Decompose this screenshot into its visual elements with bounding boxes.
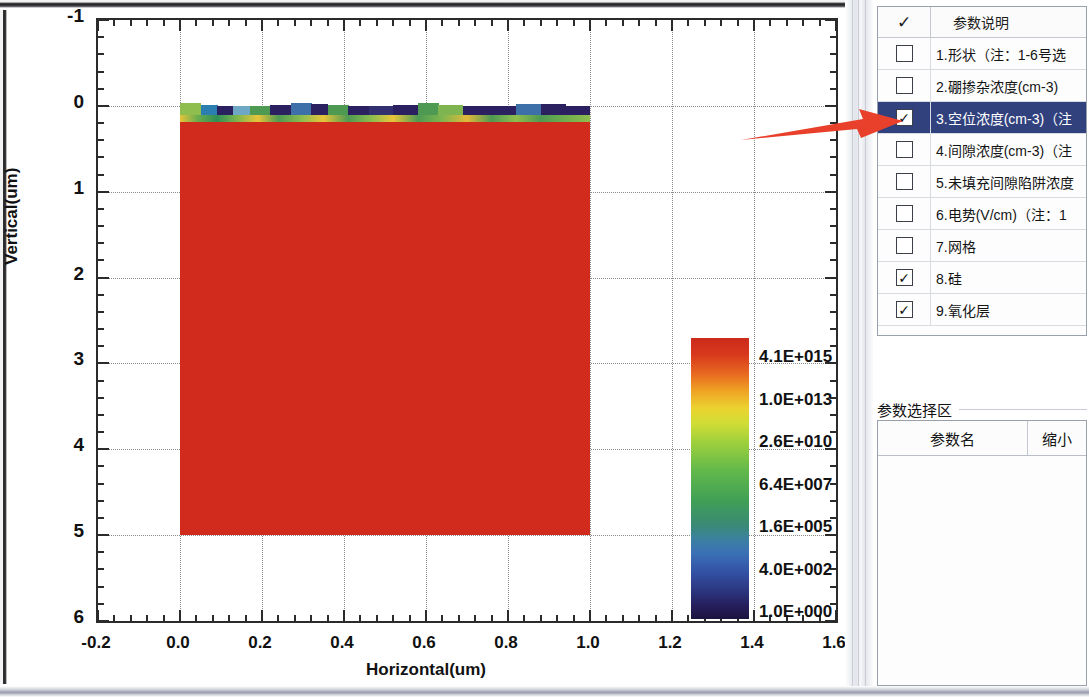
y-tick-minor: [830, 36, 836, 38]
x-tick-minor: [359, 20, 361, 26]
y-tick-minor: [98, 36, 104, 38]
parameter-row[interactable]: 1.形状（注：1-6号选: [878, 38, 1086, 70]
x-tick-minor: [523, 20, 525, 26]
parameter-checkbox-cell[interactable]: [878, 198, 931, 229]
y-tick-minor: [98, 465, 104, 467]
checkbox-unchecked-icon[interactable]: [896, 77, 913, 94]
x-tick-minor: [622, 615, 624, 621]
y-tick-minor: [830, 242, 836, 244]
checkbox-checked-icon[interactable]: ✓: [896, 301, 913, 318]
parameter-checkbox-cell[interactable]: ✓: [878, 262, 931, 293]
x-tick-minor: [687, 615, 689, 621]
parameter-row[interactable]: 2.硼掺杂浓度(cm-3): [878, 70, 1086, 102]
parameter-label: 2.硼掺杂浓度(cm-3): [931, 70, 1086, 101]
parameter-row[interactable]: 7.网格: [878, 230, 1086, 262]
parameter-label: 4.间隙浓度(cm-3)（注: [931, 134, 1086, 165]
colorbar-gradient: [691, 338, 749, 619]
x-tick-major: [671, 20, 673, 31]
y-tick-minor: [98, 259, 104, 261]
colorbar-tick-label: 6.4E+007: [759, 475, 832, 495]
x-tick-minor: [327, 20, 329, 26]
parameter-checkbox-cell[interactable]: ✓: [878, 294, 931, 325]
x-tick-minor: [556, 615, 558, 621]
y-tick-minor: [830, 139, 836, 141]
parameter-label: 1.形状（注：1-6号选: [931, 38, 1086, 69]
y-tick-minor: [830, 174, 836, 176]
x-tick-minor: [491, 615, 493, 621]
checkbox-unchecked-icon[interactable]: [896, 45, 913, 62]
x-tick-minor: [540, 615, 542, 621]
y-tick-major: [98, 105, 109, 107]
x-tick-label: 0.6: [389, 633, 459, 653]
y-tick-major: [98, 620, 109, 622]
y-tick-label: -1: [44, 5, 84, 27]
x-tick-minor: [802, 20, 804, 26]
parameter-row[interactable]: 5.未填充间隙陷阱浓度: [878, 166, 1086, 198]
checkbox-checked-icon[interactable]: ✓: [896, 269, 913, 286]
x-tick-minor: [294, 20, 296, 26]
y-tick-minor: [98, 242, 104, 244]
x-tick-minor: [720, 20, 722, 26]
x-tick-minor: [212, 615, 214, 621]
checkbox-checked-icon[interactable]: ✓: [896, 109, 913, 126]
parameter-grid-body: 1.形状（注：1-6号选2.硼掺杂浓度(cm-3)✓3.空位浓度(cm-3)（注…: [878, 38, 1086, 326]
x-tick-minor: [622, 20, 624, 26]
device-bulk-region: [180, 116, 590, 536]
parameter-row[interactable]: 6.电势(V/cm)（注：1: [878, 198, 1086, 230]
colorbar-tick-label: 4.1E+015: [759, 347, 832, 367]
parameter-label: 3.空位浓度(cm-3)（注: [931, 102, 1086, 133]
parameter-row[interactable]: ✓9.氧化层: [878, 294, 1086, 326]
gridline-vertical: [754, 20, 755, 621]
parameter-label: 9.氧化层: [931, 294, 1086, 325]
parameter-checkbox-cell[interactable]: [878, 166, 931, 197]
x-tick-minor: [737, 20, 739, 26]
parameter-label: 5.未填充间隙陷阱浓度: [931, 166, 1086, 197]
y-tick-label: 3: [44, 348, 84, 370]
checkbox-unchecked-icon[interactable]: [896, 173, 913, 190]
x-tick-minor: [441, 615, 443, 621]
parameter-checkbox-cell[interactable]: [878, 230, 931, 261]
y-tick-minor: [98, 431, 104, 433]
x-tick-major: [425, 20, 427, 31]
y-tick-major: [98, 448, 109, 450]
colorbar-tick-label: 1.0E+000: [759, 602, 832, 622]
x-tick-major: [753, 610, 755, 621]
checkbox-unchecked-icon[interactable]: [896, 205, 913, 222]
selection-header-name: 参数名: [878, 421, 1028, 455]
parameter-checkbox-cell[interactable]: ✓: [878, 102, 931, 133]
x-tick-major: [97, 20, 99, 31]
device-heatmap: [180, 102, 590, 536]
y-tick-minor: [830, 122, 836, 124]
x-tick-minor: [195, 615, 197, 621]
checkbox-unchecked-icon[interactable]: [896, 237, 913, 254]
parameter-checkbox-cell[interactable]: [878, 38, 931, 69]
y-tick-label: 0: [44, 91, 84, 113]
y-tick-minor: [830, 208, 836, 210]
x-tick-major: [589, 20, 591, 31]
colorbar-tick-label: 4.0E+002: [759, 560, 832, 580]
parameter-row[interactable]: ✓3.空位浓度(cm-3)（注: [878, 102, 1086, 134]
parameter-checkbox-cell[interactable]: [878, 134, 931, 165]
parameter-row[interactable]: ✓8.硅: [878, 262, 1086, 294]
x-tick-minor: [113, 20, 115, 26]
y-tick-minor: [98, 71, 104, 73]
selection-grid-header: 参数名 缩小: [878, 421, 1086, 456]
checkbox-unchecked-icon[interactable]: [896, 141, 913, 158]
gridline-vertical: [672, 20, 673, 621]
x-tick-major: [671, 610, 673, 621]
y-tick-major: [98, 277, 109, 279]
colorbar-tick-label: 2.6E+010: [759, 432, 832, 452]
y-tick-minor: [98, 483, 104, 485]
y-tick-major: [98, 19, 109, 21]
parameter-checkbox-cell[interactable]: [878, 70, 931, 101]
panel-splitter[interactable]: [845, 0, 873, 686]
x-tick-minor: [605, 20, 607, 26]
parameter-row[interactable]: 4.间隙浓度(cm-3)（注: [878, 134, 1086, 166]
x-tick-minor: [163, 615, 165, 621]
x-tick-minor: [212, 20, 214, 26]
x-tick-minor: [556, 20, 558, 26]
x-tick-minor: [638, 20, 640, 26]
header-check-column: ✓: [878, 7, 931, 37]
plot-frame: 4.1E+0151.0E+0132.6E+0106.4E+0071.6E+005…: [96, 18, 838, 623]
y-tick-minor: [830, 380, 836, 382]
